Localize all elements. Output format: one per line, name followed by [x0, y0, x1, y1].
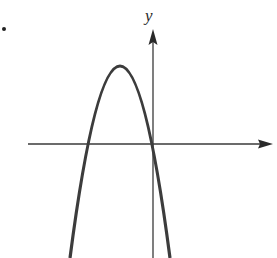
parabola-graph: y [0, 0, 277, 258]
parabola-curve [70, 66, 170, 258]
x-axis-arrow-icon [258, 140, 273, 149]
problem-marker-dot [2, 27, 6, 31]
y-axis-label: y [143, 6, 153, 25]
